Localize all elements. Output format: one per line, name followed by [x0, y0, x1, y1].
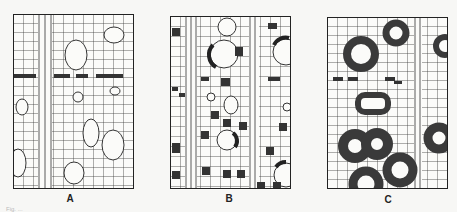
panel-a-label: A — [60, 193, 80, 204]
dark-cell-row — [14, 74, 123, 78]
cell-grid-c — [328, 18, 448, 189]
cell-grid-a — [14, 15, 134, 189]
panel-b — [170, 16, 291, 189]
panel-a — [13, 14, 134, 189]
panel-b-label: B — [219, 193, 239, 204]
panel-c — [327, 17, 448, 189]
figure-caption: Fig. ... — [6, 206, 23, 212]
panel-c-label: C — [378, 194, 398, 205]
cell-grid-b — [171, 17, 291, 189]
